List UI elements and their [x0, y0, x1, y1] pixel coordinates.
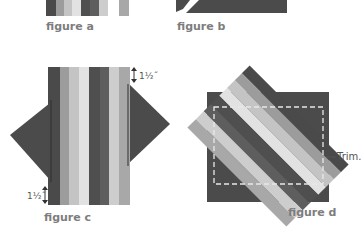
figure-b-stripe: [176, 0, 190, 12]
figure-c-caption: figure c: [44, 211, 91, 224]
figure-b-caption: figure b: [177, 20, 226, 33]
figure-c-top-dimension: 1½˝: [131, 67, 158, 83]
figure-b-dark-block: [186, 0, 287, 13]
figure-a-single-strip: [119, 0, 129, 16]
figure-c-bottom-dimension-label: 1½˝: [27, 191, 46, 201]
figure-a: figure a: [46, 0, 129, 33]
figure-d: Trim. figure d: [187, 65, 361, 226]
figure-d-trim-label: Trim.: [336, 151, 361, 162]
figure-a-caption: figure a: [46, 20, 94, 33]
figure-c-top-dimension-label: 1½˝: [139, 71, 158, 81]
figure-d-rotated-strip-set: [187, 65, 348, 226]
figure-a-strip-set: [46, 0, 108, 16]
figure-d-caption: figure d: [288, 206, 336, 219]
figure-c: 1½˝ 1½˝ figure c: [10, 67, 170, 224]
figure-c-right-triangle: [128, 83, 170, 164]
figure-b: figure b: [176, 0, 287, 33]
figure-c-bottom-dimension: 1½˝: [27, 186, 48, 204]
figure-c-left-triangle: [10, 103, 50, 180]
figure-c-strip-set: [48, 67, 130, 205]
quilt-instructions-diagram: figure a figure b 1½˝: [0, 0, 362, 242]
